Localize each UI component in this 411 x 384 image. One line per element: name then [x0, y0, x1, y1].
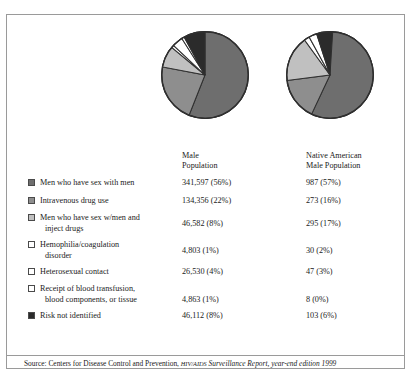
- legend-label-line2: disorder: [40, 251, 182, 262]
- pie-svg-male-population: [159, 29, 251, 121]
- value-male-population: 341,597 (56%): [182, 178, 231, 189]
- column-header-male-population: Male Population: [182, 151, 217, 172]
- source-smallcaps: HIV/AIDS: [181, 360, 207, 367]
- legend-color-swatch: [28, 179, 35, 186]
- legend-swatch-cell: [28, 197, 38, 204]
- column-header-native-american-male-population: Native American Male Population: [306, 151, 362, 172]
- source-note: Source: Centers for Disease Control and …: [24, 359, 396, 368]
- value-male-population: 46,112 (8%): [182, 311, 223, 322]
- legend-label: Men who have sex with men: [40, 178, 182, 189]
- legend-color-swatch: [28, 197, 35, 204]
- value-native-american-male-population: 8 (0%): [306, 295, 329, 306]
- legend-swatch-cell: [28, 179, 38, 186]
- legend-label: Heterosexual contact: [40, 267, 182, 278]
- value-native-american-male-population: 295 (17%): [306, 219, 341, 230]
- source-prefix: Source: Centers for Disease Control and …: [24, 359, 181, 368]
- value-native-american-male-population: 987 (57%): [306, 178, 341, 189]
- legend-label: Intravenous drug use: [40, 196, 182, 207]
- legend-color-swatch: [28, 241, 35, 248]
- legend-color-swatch: [28, 312, 35, 319]
- legend-color-swatch: [28, 285, 35, 292]
- pie-chart-native-american-male-population: [284, 29, 376, 125]
- figure-frame: Male Population Native American Male Pop…: [6, 14, 405, 369]
- legend-color-swatch: [28, 268, 35, 275]
- legend-swatch-cell: [28, 285, 38, 292]
- legend-color-swatch: [28, 214, 35, 221]
- value-male-population: 4,803 (1%): [182, 246, 219, 257]
- legend-label-line2: inject drugs: [40, 224, 182, 235]
- value-male-population: 26,530 (4%): [182, 267, 223, 278]
- source-divider: [7, 355, 404, 356]
- value-male-population: 46,582 (8%): [182, 219, 223, 230]
- value-native-american-male-population: 47 (3%): [306, 267, 333, 278]
- value-male-population: 134,356 (22%): [182, 196, 231, 207]
- source-italic: Surveillance Report, year-end edition 19…: [207, 359, 337, 368]
- value-native-american-male-population: 103 (6%): [306, 311, 337, 322]
- legend-label: Men who have sex w/men andinject drugs: [40, 213, 182, 234]
- value-native-american-male-population: 273 (16%): [306, 196, 341, 207]
- pie-chart-male-population: [159, 29, 251, 125]
- legend-swatch-cell: [28, 214, 38, 221]
- legend-swatch-cell: [28, 312, 38, 319]
- pie-chart-group: [7, 15, 404, 133]
- legend-label: Risk not identified: [40, 311, 182, 322]
- legend-label: Receipt of blood transfusion,blood compo…: [40, 284, 182, 305]
- pie-svg-native-american-male-population: [284, 29, 376, 121]
- legend-swatch-cell: [28, 268, 38, 275]
- value-male-population: 4,863 (1%): [182, 295, 219, 306]
- legend-swatch-cell: [28, 241, 38, 248]
- legend-label: Hemophilia/coagulationdisorder: [40, 240, 182, 261]
- legend-label-line2: blood components, or tissue: [40, 295, 182, 306]
- value-native-american-male-population: 30 (2%): [306, 246, 333, 257]
